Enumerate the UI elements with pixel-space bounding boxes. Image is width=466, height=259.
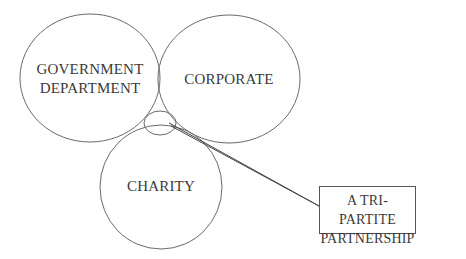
government-label-line2: DEPARTMENT: [30, 79, 150, 98]
partnership-label-line2: PARTNERSHIP: [320, 229, 415, 248]
corporate-label-text: CORPORATE: [169, 70, 289, 89]
charity-label: CHARITY: [111, 177, 211, 196]
charity-label-text: CHARITY: [111, 177, 211, 196]
partnership-label: A TRI-PARTITE PARTNERSHIP: [320, 191, 415, 248]
intersection-ellipse: [144, 111, 176, 135]
partnership-callout-box: A TRI-PARTITE PARTNERSHIP: [319, 186, 416, 234]
corporate-label: CORPORATE: [169, 70, 289, 89]
government-label: GOVERNMENT DEPARTMENT: [30, 60, 150, 98]
government-label-line1: GOVERNMENT: [30, 60, 150, 79]
partnership-label-line1: A TRI-PARTITE: [320, 191, 415, 229]
